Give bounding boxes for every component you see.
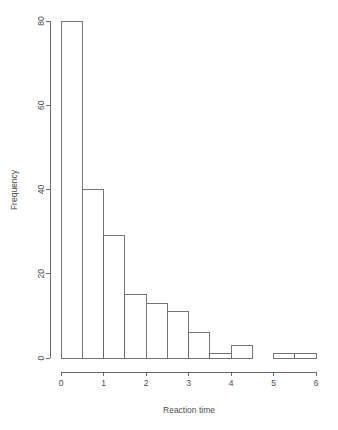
histogram-bar — [189, 333, 210, 358]
y-axis-tick-label: 0 — [36, 355, 46, 360]
histogram-bar — [231, 345, 252, 358]
y-axis-tick-label: 60 — [36, 100, 46, 110]
histogram-bar — [210, 354, 231, 358]
histogram-bars — [61, 21, 316, 358]
histogram-bar — [125, 295, 146, 358]
y-axis-title: Frequency — [9, 169, 19, 210]
histogram-bar — [167, 312, 188, 358]
histogram-bar — [104, 236, 125, 358]
histogram-canvas: 020406080 0123456 Reaction time Frequenc… — [0, 0, 338, 430]
x-axis-tick-label: 0 — [59, 378, 64, 388]
histogram-bar — [61, 21, 82, 358]
y-axis-tick-label: 40 — [36, 185, 46, 195]
histogram-bar — [82, 190, 103, 359]
histogram-plot-root: 020406080 0123456 Reaction time Frequenc… — [0, 0, 338, 430]
x-axis-tick-label: 2 — [144, 378, 149, 388]
x-axis-tick-label: 5 — [271, 378, 276, 388]
y-axis: 020406080 — [36, 16, 50, 360]
x-axis-tick-label: 4 — [229, 378, 234, 388]
x-axis: 0123456 — [59, 372, 319, 388]
x-axis-tick-label: 3 — [186, 378, 191, 388]
y-axis-tick-label: 20 — [36, 269, 46, 279]
histogram-bar — [146, 303, 167, 358]
x-axis-title: Reaction time — [163, 405, 215, 415]
x-axis-tick-label: 6 — [314, 378, 319, 388]
y-axis-tick-label: 80 — [36, 16, 46, 26]
x-axis-tick-label: 1 — [101, 378, 106, 388]
histogram-bar — [274, 354, 295, 358]
histogram-bar — [295, 354, 316, 358]
